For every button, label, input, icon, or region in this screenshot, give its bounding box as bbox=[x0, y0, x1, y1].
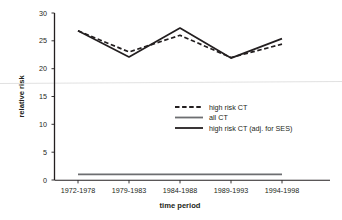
legend-label-high-risk-ct: high risk CT bbox=[209, 103, 248, 112]
line-chart: 30 25 20 15 10 5 0 relative risk 1972-19… bbox=[0, 0, 342, 220]
y-axis-title: relative risk bbox=[17, 75, 26, 118]
x-axis-title: time period bbox=[160, 201, 201, 210]
x-tick-label-3: 1984-1988 bbox=[163, 186, 197, 195]
legend-label-all-ct: all CT bbox=[209, 113, 228, 122]
chart-figure: 30 25 20 15 10 5 0 relative risk 1972-19… bbox=[0, 0, 342, 220]
x-tick-label-5: 1994-1998 bbox=[265, 186, 299, 195]
y-tick-label-5: 5 bbox=[43, 148, 47, 157]
y-tick-label-10: 10 bbox=[39, 120, 47, 129]
legend-label-high-risk-ct-adj: high risk CT (adj. for SES) bbox=[209, 124, 292, 133]
x-tick-label-1: 1972-1978 bbox=[61, 186, 95, 195]
x-tick-label-2: 1979-1983 bbox=[112, 186, 146, 195]
y-tick-label-30: 30 bbox=[39, 9, 47, 18]
x-tick-label-4: 1989-1993 bbox=[214, 186, 248, 195]
y-tick-label-0: 0 bbox=[43, 176, 47, 185]
y-tick-label-25: 25 bbox=[39, 36, 47, 45]
y-tick-label-15: 15 bbox=[39, 92, 47, 101]
y-tick-label-20: 20 bbox=[39, 64, 47, 73]
